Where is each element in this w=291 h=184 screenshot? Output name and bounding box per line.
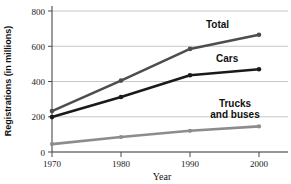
data-point-total-1980	[119, 78, 124, 83]
x-tickmarks	[52, 152, 259, 157]
chart-svg: 800 600 400 200 0 1970 1980 1990 2000 Ye…	[0, 0, 291, 184]
data-point-trucks-1980	[119, 135, 123, 139]
data-point-cars-1970	[50, 115, 55, 120]
y-tick-label-200: 200	[32, 112, 46, 122]
x-tick-label-1970: 1970	[43, 159, 62, 169]
series-label-cars: Cars	[216, 53, 239, 64]
data-point-cars-2000	[257, 67, 262, 72]
y-tick-label-0: 0	[41, 148, 46, 158]
y-tick-label-800: 800	[32, 7, 46, 17]
series-trucks-and-buses	[50, 124, 261, 146]
y-tick-label-600: 600	[32, 42, 46, 52]
x-axis-title: Year	[153, 171, 172, 182]
data-point-total-1970	[50, 109, 55, 114]
data-point-cars-1980	[119, 95, 124, 100]
y-axis-title: Registrations (in millions)	[3, 26, 13, 137]
x-tick-label-1980: 1980	[112, 159, 131, 169]
data-point-total-2000	[257, 33, 262, 38]
data-point-total-1990	[188, 47, 193, 52]
series-line-trucks-and-buses	[52, 126, 259, 144]
x-tick-label-1990: 1990	[181, 159, 200, 169]
y-tick-label-400: 400	[32, 77, 46, 87]
series-label-trucks-line1: Trucks	[219, 98, 252, 109]
data-point-trucks-2000	[257, 124, 261, 128]
data-point-trucks-1970	[50, 142, 54, 146]
data-point-trucks-1990	[188, 129, 192, 133]
data-point-cars-1990	[188, 73, 193, 78]
x-tick-label-2000: 2000	[250, 159, 269, 169]
y-tickmarks	[48, 11, 52, 152]
series-label-trucks-line2: and buses	[210, 109, 260, 120]
line-chart: 800 600 400 200 0 1970 1980 1990 2000 Ye…	[0, 0, 291, 184]
series-label-total: Total	[206, 19, 229, 30]
